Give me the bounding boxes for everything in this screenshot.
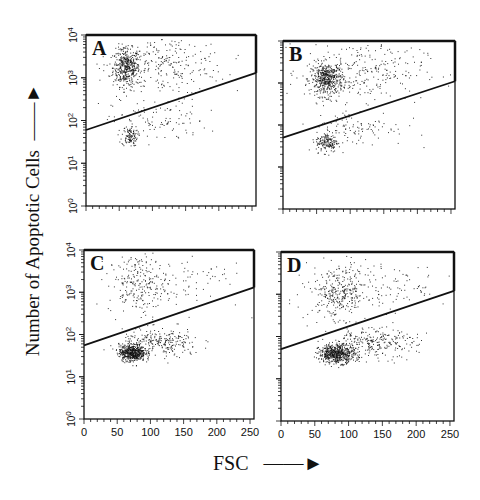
x-tick-label: 200 xyxy=(208,426,226,438)
y-tick-label: 101 xyxy=(66,155,80,171)
x-tick-label: 150 xyxy=(174,426,192,438)
panel-b: B xyxy=(278,41,455,214)
flow-cytometry-figure: 100101102103104AB10010110210310405010015… xyxy=(0,0,480,500)
arrow-up-icon: ——► xyxy=(22,84,43,146)
panel-letter: C xyxy=(90,252,104,274)
y-tick-label: 102 xyxy=(66,112,80,128)
panel-letter: A xyxy=(92,37,107,59)
panel-letter: B xyxy=(289,43,302,65)
y-tick-label: 104 xyxy=(64,242,78,258)
panel-letter: D xyxy=(287,254,301,276)
x-tick-label: 250 xyxy=(441,428,459,440)
data-points xyxy=(97,39,239,146)
y-tick-label: 104 xyxy=(66,27,80,43)
x-tick-label: 200 xyxy=(407,428,425,440)
x-tick-label: 250 xyxy=(241,426,259,438)
x-tick-label: 100 xyxy=(141,426,159,438)
x-tick-label: 0 xyxy=(278,428,284,440)
y-axis-label-text: Number of Apoptotic Cells xyxy=(22,150,43,356)
panel-d: 050100150200250D xyxy=(276,252,459,440)
x-tick-label: 100 xyxy=(339,428,357,440)
data-points xyxy=(289,256,450,368)
y-tick-label: 100 xyxy=(64,411,78,427)
x-tick-label: 0 xyxy=(81,426,87,438)
plot-frame xyxy=(283,41,455,209)
y-tick-label: 101 xyxy=(64,368,78,384)
scatter-plots: 100101102103104AB10010110210310405010015… xyxy=(0,0,480,500)
x-tick-label: 50 xyxy=(111,426,123,438)
y-tick-label: 100 xyxy=(66,198,80,214)
x-axis-label: FSC ——► xyxy=(213,452,323,475)
y-axis-label: Number of Apoptotic Cells ——► xyxy=(18,70,48,370)
data-points xyxy=(286,43,452,155)
x-axis-label-text: FSC xyxy=(213,452,249,474)
y-tick-label: 103 xyxy=(64,284,78,300)
x-tick-label: 150 xyxy=(373,428,391,440)
y-tick-label: 102 xyxy=(64,326,78,342)
x-tick-label: 50 xyxy=(309,428,321,440)
data-points xyxy=(96,253,252,367)
panel-c: 100101102103104050100150200250C xyxy=(64,242,260,438)
y-tick-label: 103 xyxy=(66,69,80,85)
gate-line xyxy=(86,73,256,130)
panel-a: 100101102103104A xyxy=(66,27,257,214)
arrow-right-icon: ——► xyxy=(254,452,324,474)
gate-line xyxy=(84,287,254,345)
